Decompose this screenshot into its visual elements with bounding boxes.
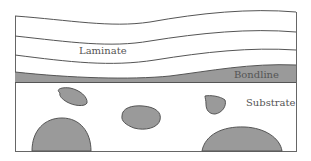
laminate-ply-line-3 bbox=[15, 49, 296, 63]
substrate-particle-2 bbox=[122, 106, 160, 129]
bondline-label: Bondline bbox=[234, 69, 279, 80]
laminate-ply-line-2 bbox=[15, 31, 296, 45]
substrate-particle-5 bbox=[202, 127, 282, 151]
laminate-ply-line-1 bbox=[15, 11, 296, 25]
substrate-particle-1 bbox=[58, 88, 87, 106]
substrate-particle-4 bbox=[32, 118, 91, 151]
substrate-label: Substrate bbox=[246, 97, 296, 108]
substrate-particle-3 bbox=[205, 96, 225, 114]
laminate-bondline-substrate-diagram: Laminate Bondline Substrate bbox=[0, 0, 311, 161]
laminate-label: Laminate bbox=[79, 45, 127, 56]
